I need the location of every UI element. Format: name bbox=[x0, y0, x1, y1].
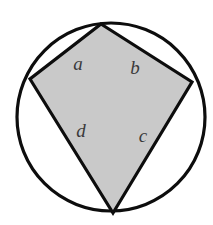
geometry-figure: a b d c bbox=[0, 0, 213, 225]
label-d: d bbox=[76, 120, 86, 141]
label-a: a bbox=[73, 53, 83, 74]
figure-canvas: a b d c bbox=[0, 0, 213, 225]
label-c: c bbox=[139, 125, 148, 146]
label-b: b bbox=[130, 57, 140, 78]
